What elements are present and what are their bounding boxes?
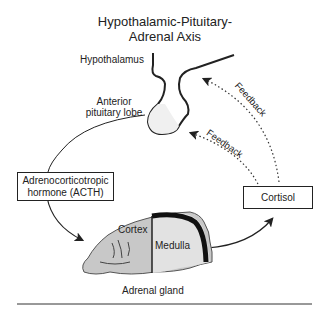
cortisol-box: Cortisol bbox=[243, 186, 313, 209]
hpa-diagram-graphics bbox=[0, 0, 330, 310]
pituitary-outline bbox=[148, 53, 234, 134]
adrenal-gland-label: Adrenal gland bbox=[122, 285, 184, 296]
adrenal-to-cortisol-arrow bbox=[207, 219, 272, 248]
cortisol-label: Cortisol bbox=[261, 192, 295, 203]
diagram-title: Hypothalamic-Pituitary- Adrenal Axis bbox=[0, 14, 330, 44]
cortex-label: Cortex bbox=[118, 224, 147, 235]
acth-line-2: hormone (ACTH) bbox=[18, 187, 113, 199]
anterior-line-1: Anterior bbox=[82, 96, 146, 107]
acth-line-1: Adrenocorticotropic bbox=[18, 175, 113, 187]
hypothalamus-label: Hypothalamus bbox=[80, 54, 144, 65]
acth-box: Adrenocorticotropic hormone (ACTH) bbox=[17, 172, 114, 201]
pituitary-to-acth-arc bbox=[48, 115, 145, 172]
anterior-line-2: pituitary lobe bbox=[82, 107, 146, 118]
adrenal-gland-illustration bbox=[83, 212, 213, 274]
title-line-2: Adrenal Axis bbox=[0, 29, 330, 44]
medulla-label: Medulla bbox=[155, 240, 190, 251]
acth-to-adrenal-arrow bbox=[47, 197, 82, 240]
title-line-1: Hypothalamic-Pituitary- bbox=[0, 14, 330, 29]
anterior-pituitary-label: Anterior pituitary lobe bbox=[82, 96, 146, 118]
